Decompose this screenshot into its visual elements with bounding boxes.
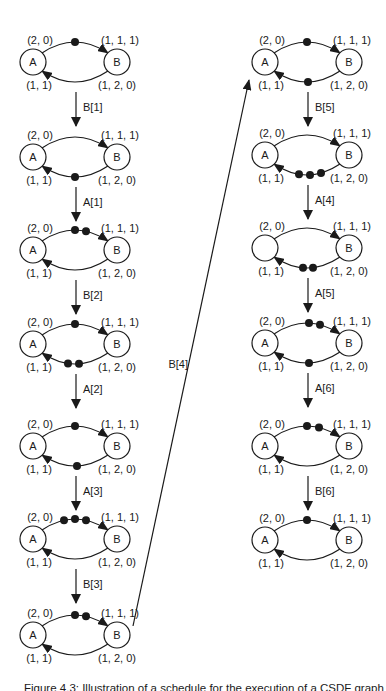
token — [64, 360, 72, 368]
token — [299, 264, 307, 272]
rate-label-top-left: (2, 0) — [259, 315, 285, 327]
rate-label-bottom-left: (1, 1) — [26, 361, 52, 373]
firing-transition: B[2] — [76, 280, 103, 314]
rate-label-top-right: (1, 1, 1) — [333, 127, 371, 139]
state-diagram: AB(2, 0)(1, 1, 1)(1, 1)(1, 2, 0) — [20, 418, 139, 475]
actor-label-b: B — [113, 244, 120, 256]
token — [303, 422, 311, 430]
transition-label: B[1] — [83, 101, 103, 113]
actor-label-a: A — [29, 440, 37, 452]
rate-label-bottom-right: (1, 2, 0) — [98, 79, 136, 91]
actor-label-b: B — [345, 56, 352, 68]
rate-label-bottom-left: (1, 1) — [26, 652, 52, 664]
token — [71, 515, 79, 523]
rate-label-top-left: (2, 0) — [259, 220, 285, 232]
token — [309, 264, 317, 272]
state-diagram: AB(2, 0)(1, 1, 1)(1, 1)(1, 2, 0) — [20, 511, 139, 568]
long-transition-label: B[4] — [168, 358, 188, 370]
state-diagram: AB(2, 0)(1, 1, 1)(1, 1)(1, 2, 0) — [252, 315, 371, 372]
token — [306, 171, 314, 179]
firing-transition: A[4] — [308, 185, 335, 219]
rate-label-top-left: (2, 0) — [27, 129, 53, 141]
rate-label-top-left: (2, 0) — [27, 511, 53, 523]
rate-label-bottom-right: (1, 2, 0) — [98, 652, 136, 664]
token — [71, 320, 79, 328]
token — [295, 170, 303, 178]
rate-label-bottom-left: (1, 1) — [26, 556, 52, 568]
actor-label-b: B — [113, 151, 120, 163]
rate-label-bottom-right: (1, 2, 0) — [98, 463, 136, 475]
rate-label-bottom-right: (1, 2, 0) — [330, 79, 368, 91]
rate-label-bottom-right: (1, 2, 0) — [330, 172, 368, 184]
rate-label-top-right: (1, 1, 1) — [333, 512, 371, 524]
token — [71, 38, 79, 46]
state-diagram: AB(2, 0)(1, 1, 1)(1, 1)(1, 2, 0) — [252, 512, 371, 569]
token — [71, 611, 79, 619]
token — [82, 612, 90, 620]
token — [75, 360, 83, 368]
token — [304, 78, 312, 86]
rate-label-bottom-right: (1, 2, 0) — [330, 463, 368, 475]
token — [82, 227, 90, 235]
rate-label-top-right: (1, 1, 1) — [101, 34, 139, 46]
firing-transition: A[2] — [76, 374, 103, 408]
rate-label-bottom-right: (1, 2, 0) — [98, 361, 136, 373]
transition-label: A[2] — [83, 383, 103, 395]
transition-label: A[1] — [83, 196, 103, 208]
rate-label-top-right: (1, 1, 1) — [333, 418, 371, 430]
actor-label-b: B — [113, 56, 120, 68]
state-diagram: AB(2, 0)(1, 1, 1)(1, 1)(1, 2, 0) — [20, 316, 139, 373]
state-diagram: AB(2, 0)(1, 1, 1)(1, 1)(1, 2, 0) — [20, 34, 139, 91]
transition-label: A[4] — [315, 194, 335, 206]
token — [305, 319, 313, 327]
rate-label-bottom-right: (1, 2, 0) — [98, 174, 136, 186]
rate-label-top-left: (2, 0) — [27, 34, 53, 46]
transition-label: B[2] — [83, 289, 103, 301]
token — [71, 422, 79, 430]
firing-transition: A[6] — [308, 373, 335, 407]
actor-label-b: B — [345, 242, 352, 254]
actor-label-a: A — [261, 337, 269, 349]
token — [303, 38, 311, 46]
rate-label-top-left: (2, 0) — [259, 418, 285, 430]
actor-label-a: A — [261, 534, 269, 546]
token — [315, 423, 323, 431]
actor-label-a: A — [261, 440, 269, 452]
actor-label-b: B — [113, 338, 120, 350]
state-diagram: AB(2, 0)(1, 1, 1)(1, 1)(1, 2, 0) — [252, 34, 371, 91]
rate-label-top-right: (1, 1, 1) — [101, 607, 139, 619]
rate-label-top-right: (1, 1, 1) — [333, 315, 371, 327]
token — [82, 516, 90, 524]
firing-transition: A[1] — [76, 187, 103, 221]
rate-label-bottom-left: (1, 1) — [258, 172, 284, 184]
rate-label-bottom-right: (1, 2, 0) — [98, 267, 136, 279]
actor-label-b: B — [113, 629, 120, 641]
firing-transition: A[3] — [76, 476, 103, 510]
rate-label-bottom-left: (1, 1) — [258, 463, 284, 475]
rate-label-top-right: (1, 1, 1) — [101, 129, 139, 141]
firing-transition: A[5] — [308, 278, 335, 312]
firing-transition: B[1] — [76, 92, 103, 126]
actor-label-a: A — [261, 56, 269, 68]
transition-label: B[6] — [315, 485, 335, 497]
token — [71, 226, 79, 234]
rate-label-top-right: (1, 1, 1) — [333, 34, 371, 46]
actor-node-a — [252, 235, 278, 261]
rate-label-top-left: (2, 0) — [259, 512, 285, 524]
actor-label-a: A — [29, 338, 37, 350]
state-diagram: AB(2, 0)(1, 1, 1)(1, 1)(1, 2, 0) — [20, 607, 139, 664]
state-diagram: AB(2, 0)(1, 1, 1)(1, 1)(1, 2, 0) — [20, 129, 139, 186]
long-transition-arrow — [133, 80, 249, 626]
rate-label-bottom-left: (1, 1) — [258, 360, 284, 372]
rate-label-bottom-left: (1, 1) — [26, 267, 52, 279]
rate-label-bottom-left: (1, 1) — [26, 79, 52, 91]
rate-label-top-left: (2, 0) — [27, 222, 53, 234]
rate-label-bottom-right: (1, 2, 0) — [330, 360, 368, 372]
firing-transition: B[3] — [76, 569, 103, 603]
firing-transition: B[5] — [308, 92, 335, 126]
rate-label-bottom-right: (1, 2, 0) — [98, 556, 136, 568]
rate-label-top-left: (2, 0) — [259, 34, 285, 46]
state-diagram: AB(2, 0)(1, 1, 1)(1, 1)(1, 2, 0) — [252, 418, 371, 475]
transition-label: B[5] — [315, 101, 335, 113]
state-sequence-diagram: AB(2, 0)(1, 1, 1)(1, 1)(1, 2, 0)AB(2, 0)… — [0, 0, 386, 691]
